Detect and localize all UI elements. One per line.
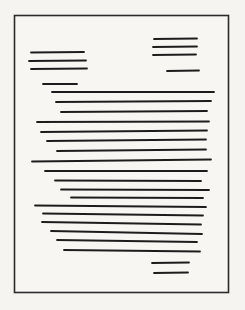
body-paragraph-stroke (37, 122, 209, 123)
sketch-strokes-group (15, 16, 229, 293)
signature-block-stroke (152, 263, 189, 264)
header-left-block-stroke (29, 61, 86, 62)
signature-block-stroke (154, 273, 188, 274)
body-paragraph-stroke (61, 111, 207, 112)
body-paragraph-stroke (56, 101, 211, 102)
body-paragraph-stroke (71, 198, 203, 199)
document-page-figure (0, 0, 245, 310)
body-paragraph-stroke (61, 190, 209, 191)
header-right-block-stroke (153, 47, 197, 48)
header-right-block-stroke (154, 39, 197, 40)
body-paragraph-stroke (55, 181, 201, 182)
document-sketch (0, 0, 245, 310)
header-right-block-stroke (153, 55, 196, 56)
header-left-block-stroke (31, 52, 84, 53)
date-line-stroke (167, 71, 199, 72)
header-left-block-stroke (31, 69, 87, 70)
